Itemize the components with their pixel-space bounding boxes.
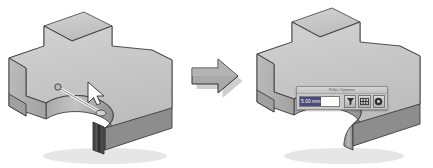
radius-input[interactable]: 5.00 mm — [299, 96, 340, 107]
transform-arrow — [188, 56, 244, 102]
radius-input-value: 5.00 mm — [300, 96, 321, 107]
part-shadow — [284, 148, 404, 164]
funnel-icon — [346, 97, 355, 106]
options-grid-button[interactable] — [358, 95, 370, 108]
3d-part-before-fillet — [0, 4, 200, 168]
confirm-button[interactable] — [373, 95, 385, 108]
snap-point-dot — [55, 84, 61, 90]
circle-check-icon — [374, 97, 383, 106]
selected-edge[interactable] — [93, 122, 104, 154]
fillet-options-toolbar[interactable]: Fillet Options 5.00 mm — [296, 86, 388, 110]
figure-canvas: Fillet Options 5.00 mm — [0, 0, 433, 168]
snap-point-handle — [96, 110, 106, 116]
grid-icon — [360, 97, 369, 106]
apply-fillet-button[interactable] — [344, 95, 356, 108]
toolbar-title: Fillet Options — [297, 87, 387, 94]
